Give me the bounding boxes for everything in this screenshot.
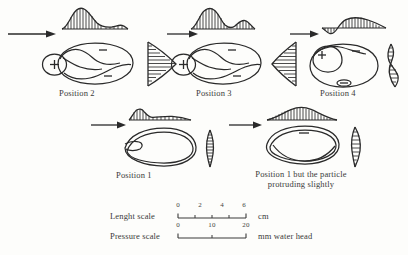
pressure-scale-unit: mm water head	[258, 231, 312, 241]
side-pressure-profile	[206, 130, 214, 167]
side-pressure-profile	[388, 44, 398, 87]
side-pressure-profile	[351, 127, 360, 167]
panel-position-1-protruding	[225, 100, 390, 176]
pressure-tick-1: 10	[208, 221, 215, 229]
particle-outline	[125, 128, 196, 166]
caption-position-1-protruding: Position 1 but the particle protruding s…	[245, 169, 357, 189]
length-tick-1: 2	[198, 201, 202, 209]
flow-arrow-icon	[290, 31, 319, 38]
flow-arrow-icon	[167, 31, 198, 38]
figure-canvas: Position 2	[0, 0, 408, 255]
pressure-curve	[129, 109, 191, 120]
length-scale-unit: cm	[258, 211, 269, 221]
particle-outline	[267, 126, 340, 164]
pressure-tick-0: 0	[176, 221, 180, 229]
pressure-scale-legend: Pressure scale 0 10 20 mm water head	[110, 230, 312, 242]
caption-position-1: Position 1	[116, 170, 152, 180]
flow-arrow-icon	[229, 122, 262, 129]
flow-arrow-icon	[91, 122, 126, 129]
pressure-curve	[267, 108, 337, 120]
flow-arrow-icon	[8, 31, 56, 38]
pressure-tick-2: 20	[242, 221, 249, 229]
panel-position-1	[85, 104, 245, 176]
panel-position-3	[165, 2, 305, 97]
caption-position-2: Position 2	[59, 88, 95, 98]
length-tick-0: 0	[176, 201, 180, 209]
pressure-curve	[62, 8, 128, 29]
particle-outline	[43, 43, 134, 84]
panel-position-2	[0, 2, 190, 97]
caption-position-4: Position 4	[320, 88, 356, 98]
panel-position-4	[288, 2, 408, 97]
length-tick-3: 6	[242, 201, 246, 209]
length-scale-label: Lenght scale	[110, 211, 176, 221]
pressure-curve	[191, 8, 255, 29]
length-tick-2: 4	[220, 201, 224, 209]
particle-outline	[172, 43, 262, 84]
particle-outline	[310, 44, 378, 87]
pressure-curve	[322, 17, 386, 33]
caption-position-3: Position 3	[196, 88, 232, 98]
pressure-scale-label: Pressure scale	[110, 231, 176, 241]
pressure-scale-bar: 0 10 20	[176, 230, 251, 242]
